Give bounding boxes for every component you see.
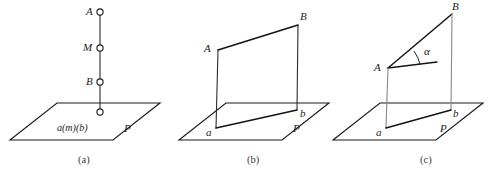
figure-canvas: A M B a(m)(b) P (a) A B a b P (b) (0, 0, 496, 171)
panel-a: A M B a(m)(b) P (a) (10, 5, 160, 166)
edge-A-a (386, 68, 388, 128)
edge-B-b (297, 25, 298, 110)
edge-A-B (218, 25, 298, 50)
edge-B-b (451, 14, 452, 110)
point-b-label: b (453, 107, 459, 119)
point-A-label: A (85, 5, 93, 17)
plane-p-outline (179, 103, 329, 140)
point-a-label: a (206, 126, 212, 138)
point-B-marker (97, 79, 103, 85)
plane-inner-label: a(m)(b) (57, 122, 88, 134)
angle-alpha-arc (414, 51, 420, 64)
point-M-label: M (82, 41, 93, 53)
point-A-label: A (373, 61, 381, 73)
panel-c: α A B a b P (c) (333, 0, 483, 166)
point-M-marker (97, 45, 103, 51)
plane-p-label: P (123, 122, 131, 134)
edge-A-B (388, 14, 452, 68)
point-B-label: B (452, 0, 459, 12)
geometry-figure: A M B a(m)(b) P (a) A B a b P (b) (0, 0, 496, 171)
panel-b: A B a b P (b) (179, 10, 329, 166)
panel-a-caption: (a) (78, 154, 90, 166)
panel-b-caption: (b) (247, 154, 260, 166)
plane-p-label: P (292, 122, 300, 134)
point-B-label: B (86, 75, 93, 87)
angle-alpha-label: α (424, 45, 430, 57)
edge-A-reference-ray (388, 62, 437, 68)
edge-A-a (216, 50, 218, 128)
point-b-label: b (300, 107, 306, 119)
panel-c-caption: (c) (420, 154, 432, 166)
edge-a-b (216, 110, 297, 128)
point-foot-marker (97, 109, 103, 115)
point-A-marker (97, 9, 103, 15)
point-a-label: a (376, 126, 382, 138)
point-B-label: B (300, 10, 307, 22)
point-A-label: A (203, 42, 211, 54)
plane-p-label: P (439, 122, 447, 134)
